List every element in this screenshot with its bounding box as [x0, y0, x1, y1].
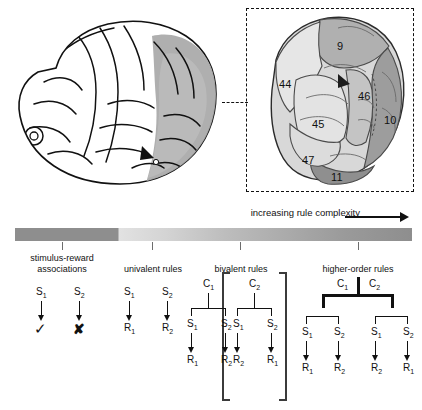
brodmann-area-46-label: 46: [358, 90, 371, 102]
context-c2-higher: C2: [369, 279, 380, 293]
stimulus-s2-c1-higher: S2: [334, 327, 345, 341]
brodmann-area-9-label: 9: [337, 40, 343, 52]
context-c1-bivalent: C1: [203, 279, 214, 293]
complexity-arrow-icon: [345, 216, 407, 218]
segment-label-bivalent: bivalent rules: [202, 264, 280, 275]
arrow-s1-to-r1-uni: [129, 301, 130, 316]
c1-higher-branch-left: [306, 316, 307, 324]
stimulus-s2-uni: S2: [162, 287, 173, 301]
increasing-rule-complexity-label: increasing rule complexity: [251, 207, 360, 218]
c2-higher-branch-right: [407, 316, 408, 324]
response-r2-c2: R2: [233, 355, 244, 369]
response-r2-c2-higher: R2: [371, 363, 382, 377]
segment-label-univalent: univalent rules: [112, 264, 194, 275]
stimulus-s2-sr: S2: [74, 287, 85, 301]
tick-stimulus-reward: [62, 242, 63, 250]
c1-stem-bivalent: [208, 293, 209, 309]
higher-order-top-crossbar: [322, 294, 393, 297]
segment-label-stimulus-reward: stimulus-reward associations: [7, 253, 117, 275]
arrow-s2-r2-c1: [225, 333, 226, 348]
response-r1-uni: R1: [124, 323, 135, 337]
response-r2-c1-higher: R2: [334, 363, 345, 377]
higher-order-top-stem: [357, 277, 360, 295]
arrow-s2-to-cross: [79, 301, 80, 316]
c2-crossbar-higher: [375, 316, 408, 317]
response-r1-c2-higher: R1: [403, 363, 414, 377]
arrow-s1-to-check: [41, 301, 42, 316]
context-c1-higher: C1: [337, 279, 348, 293]
inset-connector-line: [222, 102, 248, 103]
c2-crossbar-bivalent: [237, 308, 272, 309]
arrow-s1-r1-c1-higher: [306, 341, 307, 356]
brodmann-area-11-label: 11: [331, 171, 343, 183]
stimulus-s2-c1: S2: [221, 319, 232, 333]
arrow-s1-r2-c2-higher: [375, 341, 376, 356]
stimulus-s1-c2: S1: [233, 319, 244, 333]
higher-order-left-descender: [322, 294, 325, 308]
c1-branch-right: [225, 308, 226, 316]
c2-branch-left: [237, 308, 238, 316]
prefrontal-cortex-inset: [246, 8, 416, 194]
c1-branch-left: [191, 308, 192, 316]
response-r1-c2: R1: [267, 355, 278, 369]
brodmann-area-44-label: 44: [279, 78, 292, 90]
tick-bivalent: [240, 242, 241, 250]
response-r1-c1-higher: R1: [302, 363, 313, 377]
higher-order-right-descender: [391, 294, 394, 308]
context-c2-bivalent: C2: [249, 279, 260, 293]
no-reward-cross-icon: ✘: [73, 322, 85, 336]
arrow-s2-r1-c2-higher: [407, 341, 408, 356]
bottom-panel-rule-complexity: increasing rule complexity stimulus-rewa…: [0, 205, 422, 410]
segment-label-line1: stimulus-reward: [30, 253, 94, 263]
arrow-s2-to-r2-uni: [167, 301, 168, 316]
stimulus-s1-uni: S1: [124, 287, 135, 301]
arrow-s2-r2-c1-higher: [338, 341, 339, 356]
response-r2-uni: R2: [162, 323, 173, 337]
stimulus-s1-c1: S1: [187, 319, 198, 333]
arrow-s2-r1-c2: [271, 333, 272, 348]
stimulus-s1-c2-higher: S1: [371, 327, 382, 341]
bivalent-bracket-right: [279, 272, 287, 401]
c1-higher-branch-right: [338, 316, 339, 324]
stimulus-s1-c1-higher: S1: [302, 327, 313, 341]
top-panel-brain-anatomy: 9 44 46 45 10 47 11: [0, 0, 422, 205]
tick-univalent: [152, 242, 153, 250]
tick-higher-order: [358, 242, 359, 250]
arrow-s1-r1-c1: [191, 333, 192, 348]
stimulus-s1-sr: S1: [36, 287, 47, 301]
brain-lateral-view: [4, 8, 226, 198]
c1-crossbar-bivalent: [191, 308, 226, 309]
arrow-s1-r2-c2: [237, 333, 238, 348]
complexity-gradient-bar: [15, 228, 412, 241]
c2-stem-bivalent: [254, 293, 255, 309]
reward-check-icon: ✓: [34, 321, 47, 336]
figure-canvas: 9 44 46 45 10 47 11 increasing rule comp…: [0, 0, 422, 410]
c2-branch-right: [271, 308, 272, 316]
c2-higher-branch-left: [375, 316, 376, 324]
stimulus-s2-c2-higher: S2: [403, 327, 414, 341]
brodmann-area-47-label: 47: [302, 154, 315, 166]
response-r1-c1: R1: [187, 355, 198, 369]
response-r2-c1: R2: [221, 355, 232, 369]
c1-crossbar-higher: [306, 316, 339, 317]
segment-label-higher-order: higher-order rules: [303, 264, 413, 275]
stimulus-s2-c2: S2: [267, 319, 278, 333]
brodmann-area-45-label: 45: [312, 118, 325, 130]
brodmann-area-10-label: 10: [384, 114, 397, 126]
segment-label-line2: associations: [37, 264, 87, 274]
